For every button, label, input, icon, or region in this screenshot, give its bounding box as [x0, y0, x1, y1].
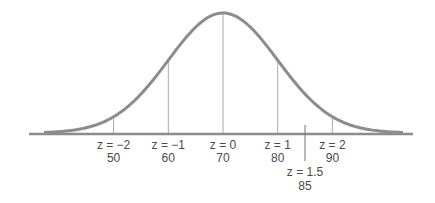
normal-distribution-chart: z = −250z = −160z = 070z = 180z = 290 z …: [0, 0, 435, 203]
value-label: 70: [216, 151, 230, 165]
z-score-label: z = 0: [210, 138, 237, 152]
z-score-label: z = 1: [265, 138, 292, 152]
z-score-label: z = −1: [152, 138, 186, 152]
value-label: 60: [162, 151, 176, 165]
z-score-label: z = 2: [319, 138, 346, 152]
value-label: 80: [271, 151, 285, 165]
highlight-value-label: 85: [298, 179, 312, 193]
value-label: 50: [107, 151, 121, 165]
z-score-label: z = −2: [97, 138, 131, 152]
value-label: 90: [326, 151, 340, 165]
highlight-z-label: z = 1.5: [287, 165, 324, 179]
